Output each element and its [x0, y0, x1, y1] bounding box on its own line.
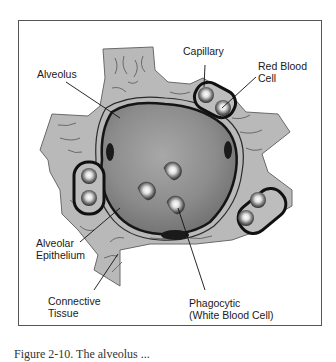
figure-caption: Figure 2-10. The alveolus ...: [14, 347, 150, 362]
red-blood-cell: [81, 168, 97, 184]
label-red-blood-cell-1: Red Blood: [258, 60, 307, 72]
label-connective-tissue-1: Connective: [48, 295, 101, 307]
red-blood-cell: [198, 87, 214, 103]
epithelial-nucleus: [224, 141, 232, 159]
epithelial-nucleus: [161, 230, 189, 240]
red-blood-cell: [238, 210, 254, 226]
label-alveolus: Alveolus: [37, 68, 77, 80]
red-blood-cell: [250, 192, 266, 208]
capillary-left: [74, 162, 104, 214]
label-capillary: Capillary: [183, 45, 224, 57]
label-phagocytic-1: Phagocytic: [189, 297, 240, 309]
label-alveolar-epithelium-1: Alveolar: [36, 237, 74, 249]
label-phagocytic-2: (White Blood Cell): [189, 309, 274, 321]
label-connective-tissue-2: Tissue: [48, 307, 79, 319]
red-blood-cell: [81, 190, 97, 206]
label-red-blood-cell-2: Cell: [258, 72, 276, 84]
label-alveolar-epithelium-2: Epithelium: [36, 249, 85, 261]
epithelial-nucleus: [106, 143, 114, 161]
